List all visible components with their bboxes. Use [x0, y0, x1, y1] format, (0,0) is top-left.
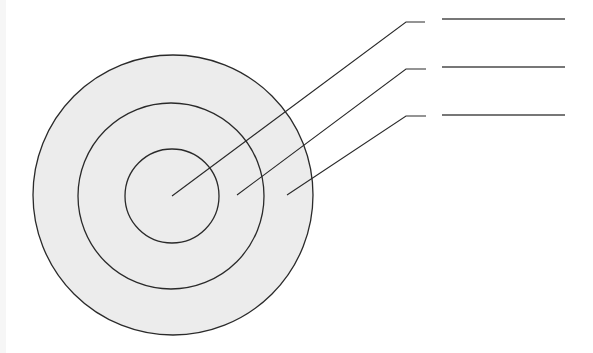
concentric-circle-diagram	[0, 0, 593, 353]
